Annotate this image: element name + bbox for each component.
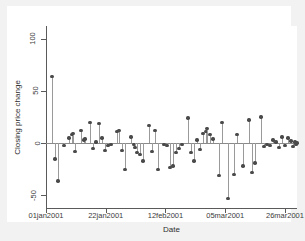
y-axis-tick-label: -50 <box>21 190 39 200</box>
data-point-marker <box>120 149 123 152</box>
y-axis-line <box>46 26 47 208</box>
data-point-marker <box>94 140 97 143</box>
data-point-marker <box>217 174 220 177</box>
data-spike <box>99 123 100 143</box>
y-axis-tick-label-text: 0 <box>32 141 41 145</box>
x-axis-tick-label: 01jan2001 <box>16 211 76 220</box>
data-point-marker <box>174 151 177 154</box>
y-axis-tick-label: 0 <box>21 138 39 148</box>
data-spike <box>90 122 91 143</box>
data-spike <box>234 143 235 174</box>
data-point-marker <box>150 150 153 153</box>
x-axis-tick-label: 12feb2001 <box>135 211 195 220</box>
data-point-marker <box>147 124 150 127</box>
data-point-marker <box>156 168 159 171</box>
data-point-marker <box>189 151 192 154</box>
data-point-marker <box>109 143 112 146</box>
data-spike <box>52 76 53 143</box>
data-point-marker <box>280 135 283 138</box>
data-point-marker <box>79 129 82 132</box>
data-point-marker <box>295 141 298 144</box>
data-point-marker <box>192 159 195 162</box>
data-point-marker <box>123 168 126 171</box>
y-axis-tick <box>41 39 46 40</box>
data-spike <box>173 143 174 166</box>
data-point-marker <box>117 129 120 132</box>
data-point-marker <box>253 161 256 164</box>
data-spike <box>261 117 262 143</box>
data-point-marker <box>268 144 271 147</box>
data-point-marker <box>67 136 70 139</box>
data-point-marker <box>171 164 174 167</box>
data-spike <box>219 143 220 175</box>
data-spike <box>249 120 250 143</box>
data-spike <box>73 134 74 143</box>
data-spike <box>117 132 118 144</box>
data-point-marker <box>56 179 59 182</box>
chart-figure: 100500-50 01jan200122jan200112feb200105m… <box>0 0 305 241</box>
data-spike <box>237 135 238 143</box>
data-point-marker <box>205 127 208 130</box>
data-point-marker <box>141 159 144 162</box>
data-point-marker <box>153 129 156 132</box>
y-axis-tick <box>41 91 46 92</box>
data-point-marker <box>91 147 94 150</box>
data-point-marker <box>250 171 253 174</box>
data-point-marker <box>53 157 56 160</box>
data-spike <box>203 134 204 143</box>
data-point-marker <box>232 173 235 176</box>
zero-reference-line <box>46 143 297 144</box>
data-point-marker <box>73 150 76 153</box>
data-point-marker <box>211 137 214 140</box>
y-axis-tick-label-text: 100 <box>28 32 37 45</box>
data-point-marker <box>241 164 244 167</box>
x-axis-tick-label: 22jan2001 <box>76 211 136 220</box>
data-point-marker <box>177 147 180 150</box>
data-point-marker <box>220 121 223 124</box>
data-spike <box>255 143 256 163</box>
y-axis-tick-label-text: 50 <box>30 87 39 95</box>
data-point-marker <box>88 121 91 124</box>
data-spike <box>58 143 59 181</box>
data-point-marker <box>274 140 277 143</box>
data-spike <box>125 143 126 169</box>
data-point-marker <box>247 118 250 121</box>
x-axis-tick-label: 05mar2001 <box>195 211 255 220</box>
data-point-marker <box>62 144 65 147</box>
data-point-marker <box>180 143 183 146</box>
data-point-marker <box>283 144 286 147</box>
data-point-marker <box>103 149 106 152</box>
data-point-marker <box>97 122 100 125</box>
data-spike <box>222 122 223 143</box>
data-point-marker <box>138 153 141 156</box>
data-point-marker <box>198 148 201 151</box>
y-axis-title: Closing price change <box>12 26 22 208</box>
data-point-marker <box>50 75 53 78</box>
y-axis-tick-label-text: -50 <box>29 190 38 201</box>
x-axis-tick-label: 26mar2001 <box>255 211 305 220</box>
data-spike <box>188 118 189 143</box>
data-point-marker <box>100 136 103 139</box>
y-axis-title-label: Closing price change <box>13 80 22 155</box>
data-spike <box>158 143 159 169</box>
y-axis-tick <box>41 195 46 196</box>
y-axis-tick-label: 50 <box>21 86 39 96</box>
data-point-marker <box>277 146 280 149</box>
data-point-marker <box>129 135 132 138</box>
data-spike <box>243 143 244 166</box>
data-point-marker <box>226 197 229 200</box>
chart-canvas: 100500-50 01jan200122jan200112feb200105m… <box>7 6 291 222</box>
data-spike <box>252 143 253 172</box>
data-point-marker <box>186 116 189 119</box>
data-spike <box>149 125 150 143</box>
x-axis-title: Date <box>46 225 297 234</box>
data-point-marker <box>195 138 198 141</box>
data-spike <box>119 131 120 144</box>
y-axis-tick-label: 100 <box>21 34 39 44</box>
data-spike <box>228 143 229 198</box>
data-point-marker <box>259 115 262 118</box>
x-axis-line <box>46 208 297 209</box>
data-point-marker <box>83 137 86 140</box>
data-spike <box>155 131 156 144</box>
data-point-marker <box>165 144 168 147</box>
